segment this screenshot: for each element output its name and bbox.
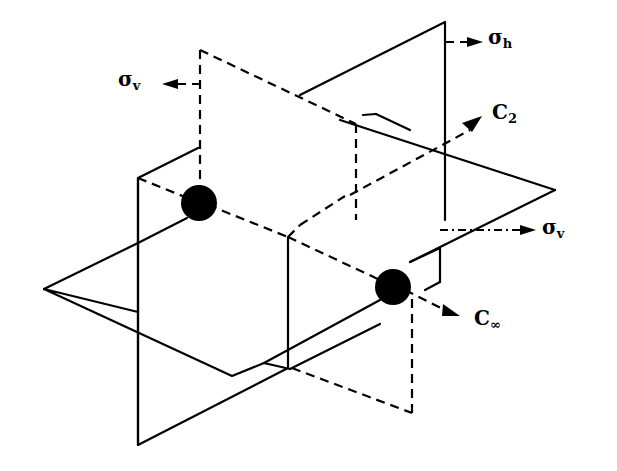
sigma-v-left-subscript: v <box>133 78 141 93</box>
label-c2: C2 <box>492 102 517 125</box>
label-c-inf: C∞ <box>474 308 501 331</box>
c-inf-symbol: C <box>474 306 490 330</box>
sigma-v-right-subscript: v <box>557 226 565 241</box>
c2-subscript: 2 <box>508 111 517 126</box>
c-inf-subscript: ∞ <box>490 317 501 332</box>
symmetry-diagram: σh σv C2 σv C∞ <box>0 0 617 471</box>
sigma-v-left-arrow-icon <box>162 79 178 89</box>
atom-right <box>375 269 411 305</box>
vertical-plane-dashed <box>138 50 470 413</box>
sigma-h-arrow-icon <box>467 37 483 47</box>
sigma-v-right-symbol: σ <box>542 215 557 239</box>
sigma-h-symbol: σ <box>488 25 503 49</box>
horizontal-plane <box>44 120 555 376</box>
label-sigma-v-right: σv <box>542 217 564 240</box>
diagram-canvas <box>0 0 617 471</box>
sigma-h-subscript: h <box>503 36 512 51</box>
label-sigma-h: σh <box>488 27 512 50</box>
atom-left <box>181 185 217 221</box>
c2-symbol: C <box>492 100 508 124</box>
sigma-v-right-arrow-icon <box>520 225 536 235</box>
c2-arrow-icon <box>462 116 482 132</box>
c-inf-arrow-icon <box>442 304 460 316</box>
label-sigma-v-left: σv <box>118 69 140 92</box>
sigma-v-left-symbol: σ <box>118 67 133 91</box>
